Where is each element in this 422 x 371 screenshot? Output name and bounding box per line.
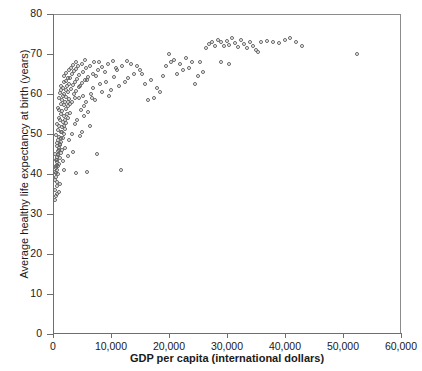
data-point: [66, 154, 70, 158]
data-point: [288, 36, 292, 40]
data-point: [245, 46, 249, 50]
data-point: [129, 62, 133, 66]
data-point: [71, 150, 75, 154]
data-point: [86, 110, 90, 114]
data-point: [88, 64, 92, 68]
data-point: [178, 62, 182, 66]
data-point: [63, 146, 67, 150]
data-point: [66, 100, 70, 104]
data-point: [104, 80, 108, 84]
data-point: [53, 170, 57, 174]
data-point: [98, 82, 102, 86]
data-point: [256, 50, 260, 54]
data-point: [164, 64, 168, 68]
data-point: [84, 100, 88, 104]
data-point: [112, 75, 116, 79]
data-point: [111, 59, 115, 63]
x-tick-mark: [401, 333, 402, 338]
data-point: [91, 86, 95, 90]
data-point: [355, 52, 359, 56]
data-point: [204, 46, 208, 50]
data-point: [79, 108, 83, 112]
y-tick-label: 0: [0, 327, 42, 339]
data-point: [103, 70, 107, 74]
data-point: [152, 96, 156, 100]
data-point: [82, 114, 86, 118]
data-point: [75, 118, 79, 122]
data-point: [140, 72, 144, 76]
data-point: [219, 60, 223, 64]
data-point: [277, 41, 281, 45]
data-point: [89, 92, 93, 96]
data-point: [77, 96, 81, 100]
data-point: [155, 86, 159, 90]
data-point: [59, 84, 63, 88]
data-point: [201, 70, 205, 74]
data-point: [161, 74, 165, 78]
data-point: [61, 159, 65, 163]
data-point: [143, 82, 147, 86]
data-point: [187, 66, 191, 70]
data-point: [60, 130, 64, 134]
data-point: [88, 124, 92, 128]
data-point: [56, 106, 60, 110]
data-point: [57, 148, 61, 152]
data-point: [213, 44, 217, 48]
data-point: [271, 40, 275, 44]
data-point: [93, 98, 97, 102]
data-point: [81, 70, 85, 74]
data-point: [230, 36, 234, 40]
data-point: [68, 76, 72, 80]
data-point: [259, 40, 263, 44]
data-point: [59, 102, 63, 106]
data-point: [67, 138, 71, 142]
y-tick-label: 10: [0, 287, 42, 299]
data-point: [109, 88, 113, 92]
data-point: [236, 45, 240, 49]
data-point: [70, 132, 74, 136]
data-point: [74, 60, 78, 64]
data-point: [75, 77, 79, 81]
data-point: [196, 74, 200, 78]
x-axis-label: GDP per capita (international dollars): [53, 352, 401, 364]
data-point: [80, 62, 84, 66]
data-point: [265, 39, 269, 43]
x-tick-label: 60,000: [366, 340, 422, 352]
data-point: [106, 62, 110, 66]
data-point: [181, 68, 185, 72]
y-axis-label: Average healthy life expectancy at birth…: [18, 44, 30, 284]
data-point: [120, 64, 124, 68]
data-point: [138, 68, 142, 72]
data-point: [198, 60, 202, 64]
data-point: [146, 98, 150, 102]
data-point: [55, 158, 59, 162]
data-point: [78, 84, 82, 88]
data-point: [115, 68, 119, 72]
data-point: [149, 78, 153, 82]
data-point: [283, 38, 287, 42]
data-point: [80, 130, 84, 134]
data-point: [58, 142, 62, 146]
data-point: [167, 52, 171, 56]
data-point: [73, 122, 77, 126]
data-point: [248, 40, 252, 44]
data-point: [227, 62, 231, 66]
data-point: [53, 198, 57, 202]
data-point: [175, 72, 179, 76]
data-point: [62, 124, 66, 128]
data-point: [62, 168, 66, 172]
data-point: [193, 82, 197, 86]
scatter-chart-figure: 01020304050607080 010,00020,00030,00040,…: [0, 0, 422, 371]
data-point: [63, 118, 67, 122]
data-point: [74, 171, 78, 175]
data-point: [85, 78, 89, 82]
data-point: [132, 72, 136, 76]
data-point: [68, 111, 72, 115]
data-point: [65, 112, 69, 116]
data-point: [300, 44, 304, 48]
y-tick-label: 80: [0, 7, 42, 19]
data-point: [135, 64, 139, 68]
data-point: [126, 76, 130, 80]
data-point: [125, 59, 129, 63]
data-point: [107, 94, 111, 98]
